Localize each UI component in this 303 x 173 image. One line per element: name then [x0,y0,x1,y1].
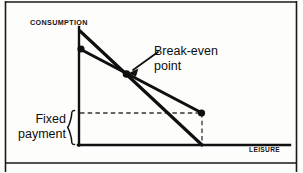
break-even-label-line1: Break-even [154,44,218,58]
point-shallow-line-endpoint [198,109,205,116]
point-shallow-line-intercept [77,45,84,52]
figure-container: CONSUMPTION LEISURE Break-even point Fix… [0,0,303,173]
x-axis-label: LEISURE [249,146,280,153]
y-axis-label: CONSUMPTION [30,18,88,27]
fixed-payment-label-line1: Fixed [35,112,66,126]
breakeven-diagram: CONSUMPTION LEISURE Break-even point Fix… [0,0,303,173]
break-even-label-line2: point [154,59,182,73]
point-break-even [123,70,131,78]
fixed-payment-label-line2: payment [18,127,66,141]
